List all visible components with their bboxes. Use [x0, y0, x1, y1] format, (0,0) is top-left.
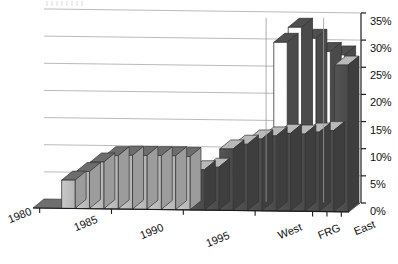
y-tick-label: 10% [370, 151, 391, 163]
y-tick-label: 25% [370, 69, 391, 81]
y-tick-label: 35% [370, 15, 391, 27]
bar-chart-3d: 35%30%25%20%15%10%5%0% 1980198519901995W… [0, 0, 398, 264]
y-tick-label: 0% [370, 205, 386, 217]
y-tick-label: 30% [370, 42, 391, 54]
y-tick-label: 15% [370, 124, 391, 136]
y-tick-label: 5% [370, 178, 386, 190]
y-axis [361, 13, 366, 203]
y-tick-label: 20% [370, 96, 391, 108]
bars-group [62, 18, 359, 211]
